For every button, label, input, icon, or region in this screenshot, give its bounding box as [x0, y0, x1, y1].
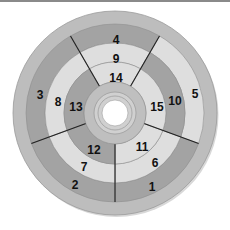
- segment-label-8: 8: [55, 95, 62, 109]
- segment-label-2: 2: [72, 178, 79, 192]
- segment-label-5: 5: [192, 87, 199, 101]
- segment-label-6: 6: [152, 156, 159, 170]
- segment-label-7: 7: [81, 160, 88, 174]
- segmented-disc-diagram: 123456789101112131415: [0, 0, 230, 230]
- segment-label-1: 1: [149, 180, 156, 194]
- segment-label-4: 4: [113, 33, 120, 47]
- segment-label-10: 10: [168, 94, 182, 108]
- segment-label-9: 9: [113, 52, 120, 66]
- segment-label-11: 11: [136, 140, 149, 154]
- segment-label-14: 14: [109, 71, 123, 85]
- segment-label-12: 12: [87, 143, 101, 157]
- segment-label-13: 13: [69, 100, 83, 114]
- segment-label-15: 15: [150, 100, 164, 114]
- segment-label-3: 3: [37, 88, 44, 102]
- center-hole: [102, 100, 128, 126]
